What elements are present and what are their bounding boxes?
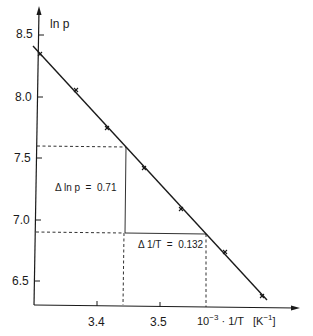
fit-line	[33, 46, 267, 300]
x-axis-label: 10−3 · 1/T [K−1]	[197, 316, 276, 327]
x-axis-arrow-icon	[291, 306, 300, 311]
y-tick-label: 7.5	[14, 152, 31, 164]
dashed-v-left	[123, 233, 124, 305]
x-axis-unit-exp: −1	[263, 313, 272, 322]
x-axis-label-exp: −3	[209, 313, 218, 322]
guide-lines	[36, 146, 206, 307]
y-tick-label: 8.5	[16, 28, 33, 40]
delta-invT-annotation: Δ 1/T = 0.132	[138, 240, 203, 250]
chart-canvas	[0, 0, 313, 336]
dashed-h-upper	[37, 146, 126, 147]
x-marker-icon	[74, 88, 78, 92]
solid-v-left	[125, 147, 126, 233]
x-axis	[34, 305, 296, 308]
y-tick-label: 7.0	[13, 214, 30, 226]
y-tick-label: 8.0	[15, 91, 32, 103]
y-tick-label: 6.5	[12, 275, 29, 287]
solid-h-lower	[125, 233, 206, 234]
delta-lnp-annotation: Δ ln p = 0.71	[55, 183, 116, 193]
x-axis-label-mid: · 1/T [K	[218, 315, 263, 327]
x-axis-label-base: 10	[197, 315, 209, 327]
x-tick-label: 3.4	[88, 316, 105, 328]
y-axis-arrow-icon	[37, 6, 42, 15]
y-axis-label: ln p	[50, 18, 69, 30]
x-tick-label: 3.5	[150, 316, 167, 328]
dashed-h-lower	[36, 232, 124, 233]
